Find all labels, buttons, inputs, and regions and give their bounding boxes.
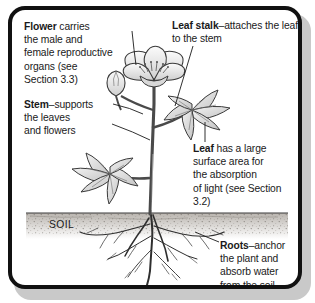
diagram-frame: Flower carries the male and female repro…: [8, 6, 302, 289]
leaf-right: [164, 90, 230, 140]
callout-leaf: Leaf has a large surface area for the ab…: [193, 142, 298, 208]
figure-container: Flower carries the male and female repro…: [0, 0, 315, 303]
callout-roots: Roots–anchor the plant and absorb water …: [220, 239, 285, 289]
flower-head: [123, 46, 185, 87]
leader-stem-b: [112, 124, 150, 140]
callout-leaf-term: Leaf: [193, 143, 214, 154]
callout-leaf-stalk-term: Leaf stalk: [172, 20, 219, 31]
callout-stem: Stem–supports the leaves and flowers: [24, 98, 93, 138]
callout-flower: Flower carries the male and female repro…: [24, 20, 113, 86]
soil-label: SOIL: [49, 219, 74, 230]
callout-stem-term: Stem: [24, 99, 49, 110]
callout-flower-term: Flower: [24, 21, 57, 32]
callout-roots-term: Roots: [220, 240, 249, 251]
leaf-left: [72, 153, 138, 204]
callout-leaf-stalk: Leaf stalk–attaches the leaf to the stem: [172, 19, 298, 45]
